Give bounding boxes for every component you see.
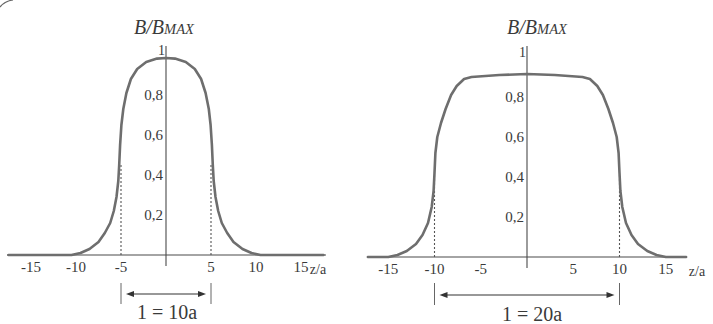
title-subscript: MAX [536, 21, 568, 37]
y-tick-label: 1 [158, 43, 165, 58]
x-axis-label: z/a [689, 264, 706, 279]
y-tick-label: 0,4 [505, 169, 524, 185]
figure: B/BMAX -15-10-5510150,20,40,60,81z/a1 = … [0, 0, 713, 324]
x-tick-label: 15 [294, 259, 309, 275]
chart-solenoid-l10a: B/BMAX -15-10-5510150,20,40,60,81z/a1 = … [7, 16, 327, 323]
y-tick-label: 0,4 [144, 167, 163, 183]
x-tick-label: 5 [207, 259, 215, 275]
y-tick-label: 0,2 [144, 207, 163, 223]
arrowhead-right-icon [198, 291, 206, 297]
circled-label-fragment [0, 0, 13, 7]
x-tick-label: 10 [612, 261, 627, 277]
x-tick-label: -15 [21, 259, 41, 275]
x-tick-label: -10 [425, 261, 445, 277]
arrowhead-left-icon [126, 291, 134, 297]
x-tick-label: -5 [475, 261, 488, 277]
arrowhead-right-icon [607, 292, 615, 298]
x-tick-label: -5 [115, 259, 128, 275]
y-tick-label: 0,6 [505, 129, 524, 145]
x-tick-label: 10 [249, 259, 264, 275]
chart-title: B/BMAX [134, 16, 195, 38]
chart-solenoid-l20a: B/BMAX -15-10-5510150,20,40,60,81z/a1 = … [368, 16, 706, 324]
length-annotation: 1 = 10a [137, 301, 197, 323]
y-tick-label: 0,6 [144, 127, 163, 143]
chart-title: B/BMAX [507, 16, 568, 38]
y-tick-label: 0,2 [505, 209, 524, 225]
y-tick-label: 0,8 [505, 89, 524, 105]
title-base: B/B [134, 16, 164, 38]
x-axis-label: z/a [310, 262, 327, 277]
x-tick-label: 5 [570, 261, 578, 277]
y-tick-label: 1 [519, 45, 526, 60]
x-tick-label: -15 [378, 261, 398, 277]
title-base: B/B [507, 16, 537, 38]
length-annotation: 1 = 20a [502, 303, 562, 324]
arrowhead-left-icon [440, 292, 448, 298]
x-tick-label: 15 [658, 261, 673, 277]
x-tick-label: -10 [66, 259, 86, 275]
y-tick-label: 0,8 [144, 87, 163, 103]
title-subscript: MAX [163, 21, 195, 37]
